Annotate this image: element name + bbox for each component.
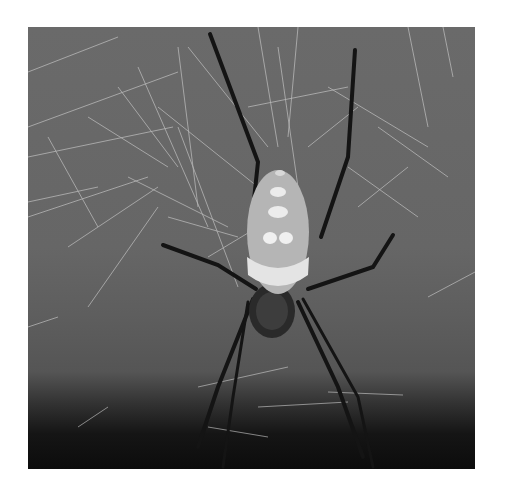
spider-illustration (28, 27, 475, 469)
spider-photo: Spider on web (28, 27, 475, 469)
spider-abdomen (247, 170, 309, 294)
